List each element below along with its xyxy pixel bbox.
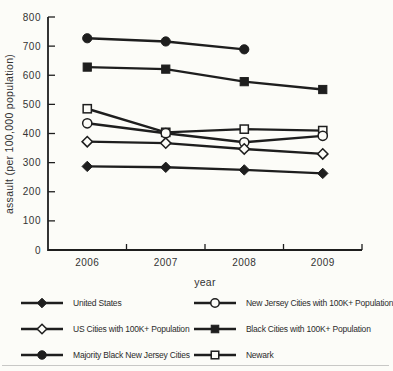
legend-label: Newark (246, 350, 274, 360)
circle-filled-icon (38, 351, 46, 359)
legend-column-left: United States US Cities with 100K+ Popul… (20, 290, 190, 368)
chart-legend: United States US Cities with 100K+ Popul… (0, 290, 389, 368)
y-tick-label: 0 (35, 245, 41, 256)
legend-label: Majority Black New Jersey Cities (73, 350, 190, 360)
legend-item-nj-cities-100k: New Jersey Cities with 100K+ Population (193, 290, 393, 316)
filled-square-legend-icon (193, 323, 237, 335)
chart-canvas: 0100200300400500600700800200620072008200… (0, 0, 389, 292)
y-tick-label: 100 (23, 215, 41, 226)
legend-label: United States (73, 298, 121, 308)
data-point-circle-open (161, 129, 170, 138)
series-line-3 (87, 123, 323, 142)
legend-label: Black Cities with 100K+ Population (246, 324, 371, 334)
legend-label: US Cities with 100K+ Population (73, 324, 189, 334)
y-tick-label: 500 (23, 99, 41, 110)
legend-column-right: New Jersey Cities with 100K+ Population … (193, 290, 393, 368)
filled-diamond-legend-icon (20, 297, 64, 309)
y-tick-label: 200 (23, 186, 41, 197)
data-point-square-filled (319, 85, 327, 93)
data-point-diamond-filled (239, 165, 249, 175)
legend-item-united-states: United States (20, 290, 190, 316)
y-tick-label: 800 (23, 12, 41, 23)
data-point-diamond-open (318, 149, 328, 159)
data-point-square-filled (83, 63, 91, 71)
data-point-square-filled (162, 65, 170, 73)
circle-open-icon (211, 299, 219, 307)
y-tick-label: 600 (23, 70, 41, 81)
data-point-circle-filled (83, 34, 92, 43)
x-tick-label: 2007 (154, 257, 178, 268)
data-point-diamond-open (82, 136, 92, 146)
data-point-circle-filled (240, 45, 249, 54)
data-point-circle-open (318, 131, 327, 140)
diamond-open-icon (37, 324, 47, 334)
data-point-square-open (240, 125, 248, 133)
series-line-4 (87, 67, 323, 89)
square-filled-icon (211, 325, 219, 333)
open-diamond-legend-icon (20, 323, 64, 335)
y-tick-label: 400 (23, 128, 41, 139)
data-point-diamond-open (161, 138, 171, 148)
data-point-diamond-filled (82, 161, 92, 171)
data-point-square-open (83, 105, 91, 113)
legend-item-black-cities-100k: Black Cities with 100K+ Population (193, 316, 393, 342)
x-axis-label: year (194, 276, 216, 288)
legend-item-us-cities-100k: US Cities with 100K+ Population (20, 316, 190, 342)
diamond-filled-icon (37, 298, 47, 308)
y-tick-label: 700 (23, 41, 41, 52)
data-point-circle-filled (161, 37, 170, 46)
axes (48, 17, 362, 250)
y-axis-label: assault (per 100,000 population) (3, 54, 15, 214)
page-divider-line (2, 365, 389, 366)
open-circle-legend-icon (193, 297, 237, 309)
data-point-diamond-filled (318, 168, 328, 178)
data-point-diamond-filled (161, 162, 171, 172)
x-tick-label: 2009 (311, 257, 335, 268)
x-tick-label: 2008 (232, 257, 256, 268)
open-square-legend-icon (193, 349, 237, 361)
filled-circle-legend-icon (20, 349, 64, 361)
x-tick-label: 2006 (75, 257, 99, 268)
series-line-1 (87, 142, 323, 154)
legend-label: New Jersey Cities with 100K+ Population (246, 298, 393, 308)
data-point-circle-open (83, 119, 92, 128)
series-line-0 (87, 166, 323, 173)
square-open-icon (211, 351, 219, 359)
data-point-square-filled (240, 78, 248, 86)
y-tick-label: 300 (23, 157, 41, 168)
